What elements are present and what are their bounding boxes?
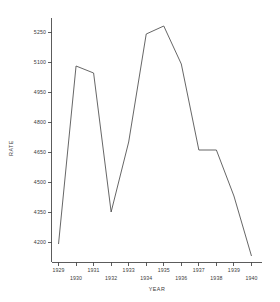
y-axis-tick-labels: 42004350450046504800495051005250 [34, 29, 46, 245]
y-tick-label: 4800 [34, 119, 46, 125]
x-tick-label: 1935 [158, 267, 170, 273]
rate-year-line-chart: 42004350450046504800495051005250 1929193… [0, 0, 280, 302]
y-tick-label: 4200 [34, 239, 46, 245]
x-tick-label: 1940 [245, 275, 257, 281]
y-axis-title: RATE [8, 140, 14, 156]
x-tick-label: 1933 [123, 267, 135, 273]
data-series-line [59, 26, 252, 256]
x-axis-title: YEAR [149, 286, 165, 292]
x-tick-label: 1938 [210, 275, 222, 281]
y-tick-label: 5100 [34, 59, 46, 65]
x-tick-label: 1931 [88, 267, 100, 273]
x-tick-label: 1936 [175, 275, 187, 281]
chart-container: 42004350450046504800495051005250 1929193… [0, 0, 280, 302]
y-axis-ticks [48, 32, 52, 242]
x-tick-label: 1929 [52, 267, 64, 273]
x-axis-ticks [59, 262, 252, 266]
x-tick-label: 1937 [193, 267, 205, 273]
x-tick-label: 1930 [70, 275, 82, 281]
x-tick-label: 1934 [140, 275, 152, 281]
y-tick-label: 4350 [34, 209, 46, 215]
y-tick-label: 4650 [34, 149, 46, 155]
x-axis-tick-labels: 1929193019311932193319341935193619371938… [52, 267, 257, 281]
x-tick-label: 1939 [228, 267, 240, 273]
x-tick-label: 1932 [105, 275, 117, 281]
y-tick-label: 5250 [34, 29, 46, 35]
y-tick-label: 4950 [34, 89, 46, 95]
y-tick-label: 4500 [34, 179, 46, 185]
